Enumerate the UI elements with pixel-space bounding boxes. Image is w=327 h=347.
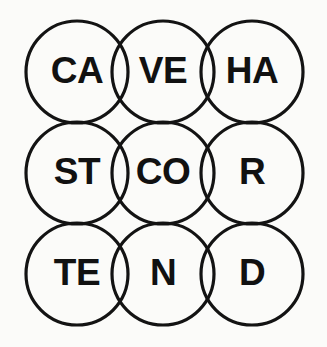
circle-grid-svg: CAVEHASTCORTEND xyxy=(0,0,327,347)
label-cell-r3c1: TE xyxy=(54,252,100,293)
syllable-circle-grid: CAVEHASTCORTEND xyxy=(0,0,327,347)
label-cell-r2c1: ST xyxy=(54,151,101,192)
label-cell-r1c1: CA xyxy=(51,50,103,91)
label-cell-r2c3: R xyxy=(239,151,265,192)
label-cell-r1c2: VE xyxy=(139,50,187,91)
label-cell-r3c2: N xyxy=(150,252,176,293)
label-cell-r1c3: HA xyxy=(226,50,278,91)
labels-layer: CAVEHASTCORTEND xyxy=(51,50,278,293)
label-cell-r2c2: CO xyxy=(136,151,191,192)
label-cell-r3c3: D xyxy=(239,252,265,293)
